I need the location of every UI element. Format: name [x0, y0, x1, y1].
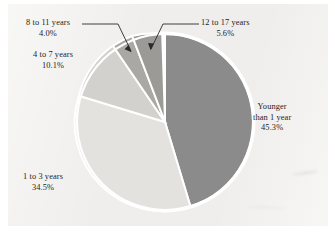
pie-label-8-to-11-years: 8 to 11 years 4.0% [26, 18, 70, 39]
pie-label-12-to-17-years: 12 to 17 years 5.6% [201, 18, 250, 39]
pie-chart-figure: 8 to 11 years 4.0% 4 to 7 years 10.1% 1 … [0, 0, 335, 236]
pie-label-4-to-7-years-name: 4 to 7 years [33, 50, 73, 61]
pie-label-younger-than-1-year: Younger than 1 year 45.3% [253, 102, 291, 134]
pie-label-8-to-11-years-name: 8 to 11 years [26, 18, 70, 29]
pie-label-12-to-17-years-name: 12 to 17 years [201, 18, 250, 29]
pie-label-4-to-7-years-value: 10.1% [33, 61, 73, 72]
pie-label-4-to-7-years: 4 to 7 years 10.1% [33, 50, 73, 71]
pie-label-8-to-11-years-value: 4.0% [26, 29, 70, 40]
pie-label-1-to-3-years: 1 to 3 years 34.5% [23, 172, 63, 193]
pie-label-1-to-3-years-value: 34.5% [23, 183, 63, 194]
pie-label-12-to-17-years-value: 5.6% [201, 29, 250, 40]
pie-label-younger-than-1-year-value: 45.3% [253, 123, 291, 134]
pie-label-younger-than-1-year-name-line1: Younger [253, 102, 291, 113]
pie-label-1-to-3-years-name: 1 to 3 years [23, 172, 63, 183]
pie-label-younger-than-1-year-name-line2: than 1 year [253, 113, 291, 124]
chart-plot-area: 8 to 11 years 4.0% 4 to 7 years 10.1% 1 … [0, 0, 335, 236]
